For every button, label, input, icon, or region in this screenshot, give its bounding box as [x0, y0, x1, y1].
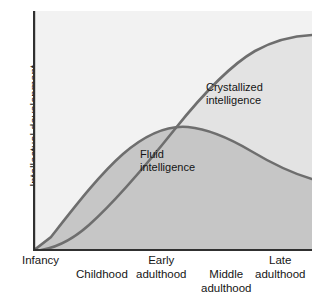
plot-area [33, 11, 312, 251]
x-tick-early-line2: adulthood [136, 268, 187, 282]
intelligence-development-chart: Intellectual development Crystallized in… [0, 0, 329, 304]
crystallized-label-line2: intelligence [206, 94, 263, 107]
x-tick-late-line1: Late [255, 254, 306, 268]
x-tick-infancy: Infancy [22, 254, 59, 268]
fluid-label-line2: intelligence [140, 161, 195, 174]
x-tick-middle-line1: Middle [201, 268, 252, 282]
fluid-label-line1: Fluid [140, 148, 195, 161]
crystallized-label-line1: Crystallized [206, 81, 263, 94]
x-tick-early-line1: Early [136, 254, 187, 268]
crystallized-intelligence-label: Crystallized intelligence [206, 81, 263, 106]
x-tick-early-adulthood: Early adulthood [136, 254, 187, 281]
x-tick-middle-line2: adulthood [201, 282, 252, 296]
fluid-intelligence-label: Fluid intelligence [140, 148, 195, 173]
x-tick-childhood: Childhood [76, 268, 128, 282]
x-tick-middle-adulthood: Middle adulthood [201, 268, 252, 295]
x-tick-late-line2: adulthood [255, 268, 306, 282]
x-tick-late-adulthood: Late adulthood [255, 254, 306, 281]
chart-svg [33, 11, 312, 251]
